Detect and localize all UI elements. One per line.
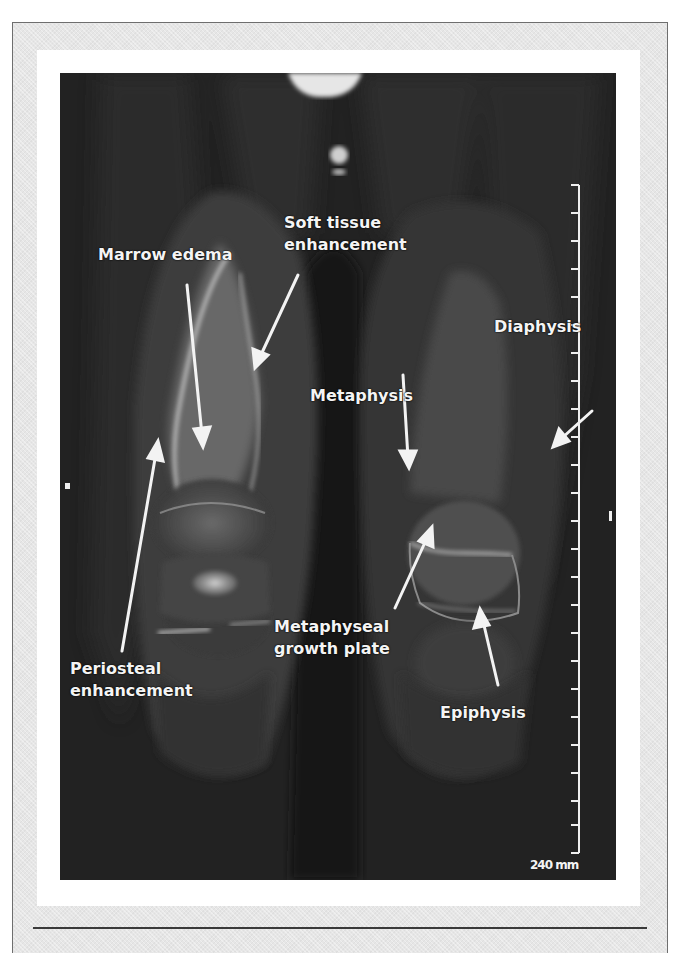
scale-label: 240 mm — [530, 858, 578, 872]
mri-anatomy-illustration — [60, 73, 616, 880]
mri-image: Marrow edema Soft tissue enhancement Dia… — [60, 73, 616, 880]
label-periosteal-line2: enhancement — [70, 681, 193, 701]
caption-divider — [33, 927, 647, 929]
label-metaphysis: Metaphysis — [310, 386, 413, 406]
label-soft-tissue-line1: Soft tissue — [284, 213, 381, 233]
label-diaphysis: Diaphysis — [494, 317, 581, 337]
label-soft-tissue-line2: enhancement — [284, 235, 407, 255]
label-periosteal-line1: Periosteal — [70, 659, 161, 679]
label-epiphysis: Epiphysis — [440, 703, 526, 723]
label-metaphyseal-line1: Metaphyseal — [274, 617, 389, 637]
left-orientation-marker — [65, 483, 70, 489]
label-metaphyseal-line2: growth plate — [274, 639, 390, 659]
right-orientation-marker — [609, 511, 612, 521]
label-marrow-edema: Marrow edema — [98, 245, 232, 265]
